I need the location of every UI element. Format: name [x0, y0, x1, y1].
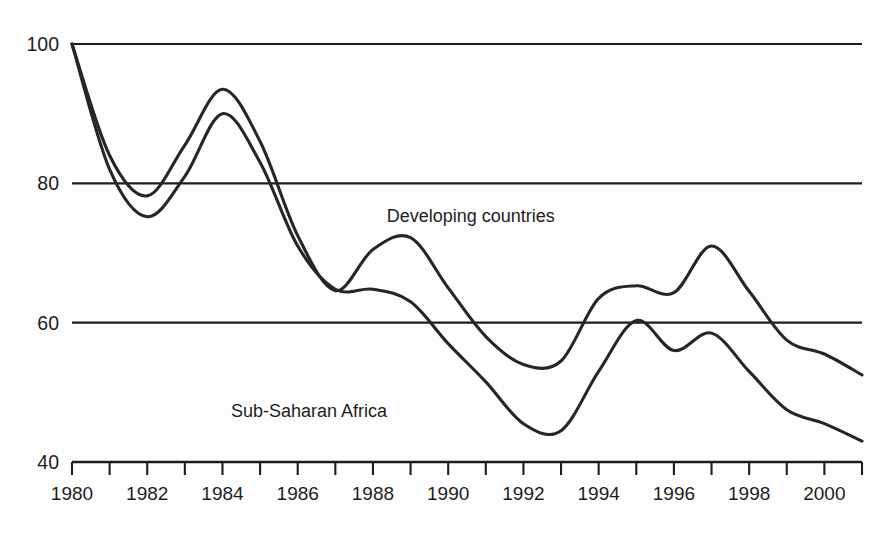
x-axis [72, 462, 862, 475]
series-line-sub-saharan-africa [72, 44, 862, 441]
y-tick-label-40: 40 [37, 451, 59, 473]
x-tick-label-1982: 1982 [126, 483, 168, 504]
y-tick-label-60: 60 [37, 312, 59, 334]
y-tick-label-100: 100 [26, 33, 59, 55]
series-label-sub-saharan-africa: Sub-Saharan Africa [231, 401, 388, 421]
series-label-developing-countries: Developing countries [387, 206, 555, 226]
y-axis-tick-labels: 100806040 [26, 33, 59, 473]
line-chart: 100806040 198019821984198619881990199219… [0, 0, 888, 543]
x-tick-label-1986: 1986 [277, 483, 319, 504]
x-tick-label-1980: 1980 [51, 483, 93, 504]
x-tick-label-2000: 2000 [803, 483, 845, 504]
x-axis-tick-labels: 1980198219841986198819901992199419961998… [51, 483, 846, 504]
data-series [72, 44, 862, 441]
x-tick-label-1990: 1990 [427, 483, 469, 504]
x-tick-label-1996: 1996 [653, 483, 695, 504]
x-tick-label-1992: 1992 [502, 483, 544, 504]
x-tick-label-1994: 1994 [578, 483, 621, 504]
x-tick-label-1998: 1998 [728, 483, 770, 504]
chart-canvas: 100806040 198019821984198619881990199219… [0, 0, 888, 543]
x-tick-label-1984: 1984 [201, 483, 244, 504]
y-tick-label-80: 80 [37, 172, 59, 194]
x-tick-label-1988: 1988 [352, 483, 394, 504]
